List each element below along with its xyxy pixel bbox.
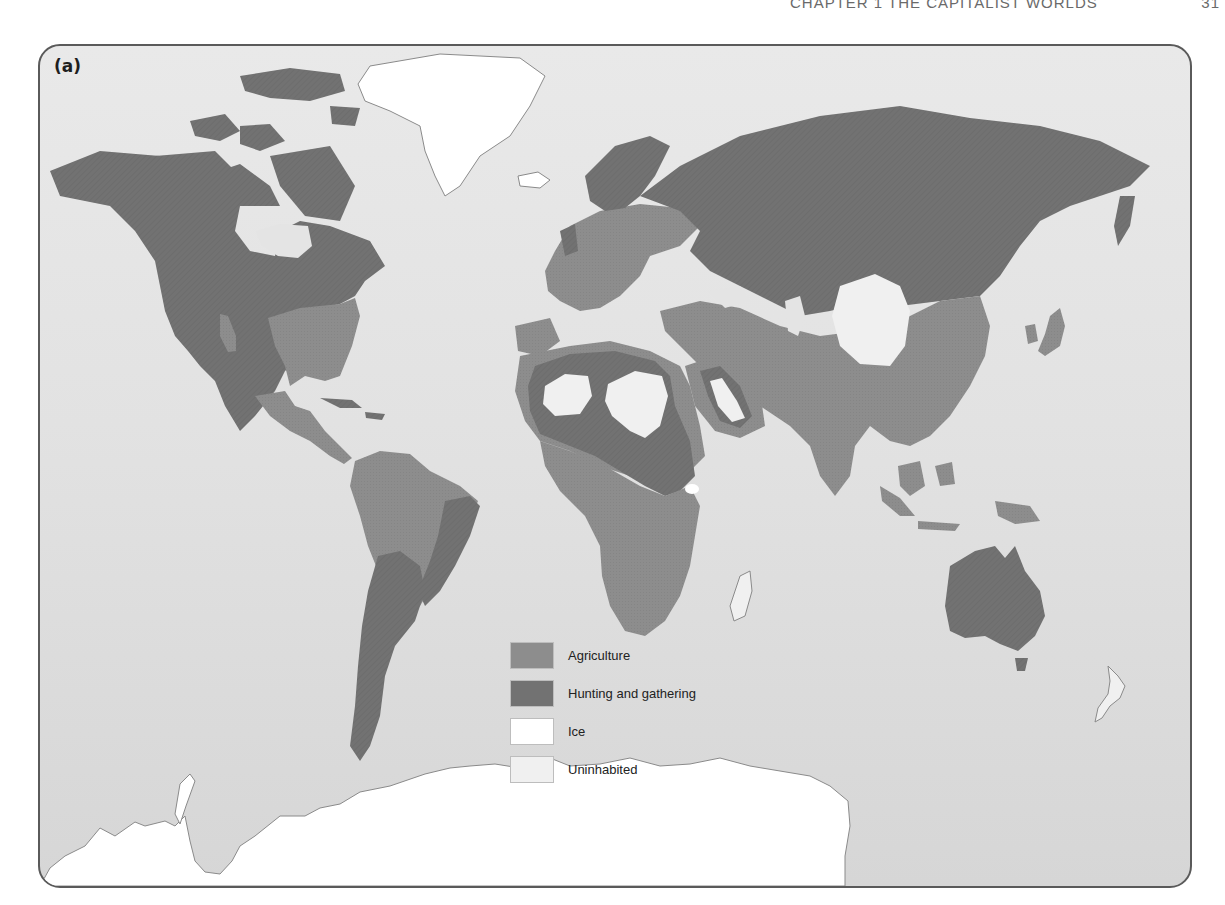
australia-hunting	[945, 546, 1045, 651]
europe-agriculture	[545, 204, 700, 311]
running-header-title: Chapter 1 The Capitalist Worlds	[790, 0, 1098, 8]
new-zealand-uninhabited	[1095, 666, 1125, 722]
madagascar-uninhabited	[730, 571, 752, 621]
korea	[1025, 324, 1038, 344]
greenland-ice	[358, 54, 545, 196]
iceland	[518, 172, 550, 188]
running-header: Chapter 1 The Capitalist Worlds 31	[790, 0, 1220, 8]
legend-label: Uninhabited	[568, 762, 637, 777]
legend-label: Ice	[568, 724, 585, 739]
legend-label: Hunting and gathering	[568, 686, 696, 701]
panel-label: (a)	[54, 56, 81, 76]
ice-swatch	[510, 718, 554, 745]
southeast-asia-islands	[880, 461, 1040, 531]
map-legend: Agriculture Hunting and gathering Ice Un…	[510, 636, 696, 788]
legend-item-hunting-gathering: Hunting and gathering	[510, 674, 696, 712]
japan	[1038, 308, 1065, 356]
south-america-hunting-south	[350, 551, 425, 761]
caribbean-islands	[320, 398, 385, 420]
tasmania	[1015, 658, 1028, 671]
map-figure-frame: (a) Agriculture Hunting and gathering Ic…	[38, 44, 1192, 888]
hudson-bay	[255, 224, 312, 258]
lake-victoria	[685, 484, 699, 494]
agriculture-swatch	[510, 642, 554, 669]
legend-item-agriculture: Agriculture	[510, 636, 696, 674]
uninhabited-swatch	[510, 756, 554, 783]
kamchatka	[1114, 196, 1135, 246]
legend-item-ice: Ice	[510, 712, 696, 750]
legend-item-uninhabited: Uninhabited	[510, 750, 696, 788]
antarctica-ice	[40, 758, 850, 886]
page-number: 31	[1201, 0, 1220, 8]
legend-label: Agriculture	[568, 648, 630, 663]
hunting-gathering-swatch	[510, 680, 554, 707]
